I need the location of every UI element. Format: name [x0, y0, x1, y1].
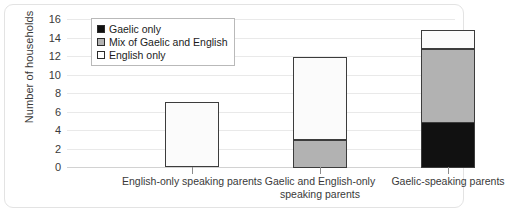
- legend-item-label: Mix of Gaelic and English: [109, 36, 227, 48]
- legend-item-label: Gaelic only: [109, 23, 161, 35]
- bar-stack[interactable]: [165, 102, 219, 167]
- legend-item[interactable]: Gaelic only: [97, 22, 227, 35]
- legend-swatch-icon: [97, 38, 105, 46]
- y-axis-tick-label: 0: [55, 161, 61, 173]
- gridline: [67, 149, 455, 150]
- x-axis-tick-mark: [448, 167, 449, 174]
- axis-baseline: [67, 167, 455, 168]
- bar-segment[interactable]: [293, 140, 347, 168]
- gridline: [67, 112, 455, 113]
- x-axis-tick-mark: [192, 167, 193, 174]
- x-axis-tick-mark: [320, 167, 321, 174]
- y-axis-tick-label: 10: [49, 69, 61, 81]
- legend-item-label: English only: [109, 49, 166, 61]
- legend-swatch-icon: [97, 25, 105, 33]
- bar-stack[interactable]: [293, 57, 347, 167]
- y-axis-tick-label: 16: [49, 13, 61, 25]
- y-axis-tick-label: 4: [55, 124, 61, 136]
- legend-swatch-icon: [97, 51, 105, 59]
- y-axis-tick-label: 14: [49, 32, 61, 44]
- y-axis-tick-label: 8: [55, 87, 61, 99]
- legend-item[interactable]: English only: [97, 48, 227, 61]
- y-axis-title: Number of households: [23, 0, 35, 137]
- bar-segment[interactable]: [165, 102, 219, 167]
- bar-segment[interactable]: [421, 122, 475, 168]
- y-axis-tick-label: 12: [49, 50, 61, 62]
- legend-item[interactable]: Mix of Gaelic and English: [97, 35, 227, 48]
- bar-stack[interactable]: [421, 30, 475, 167]
- y-axis-tick-label: 2: [55, 143, 61, 155]
- chart-container: Number of households 1614121086420 Engli…: [4, 4, 464, 208]
- chart-legend: Gaelic onlyMix of Gaelic and EnglishEngl…: [91, 18, 235, 66]
- bar-segment[interactable]: [421, 30, 475, 49]
- bar-segment[interactable]: [293, 57, 347, 140]
- x-axis-category-label: Gaelic-speaking parents: [373, 175, 509, 188]
- gridline: [67, 93, 455, 94]
- gridline: [67, 75, 455, 76]
- bar-segment[interactable]: [421, 49, 475, 123]
- gridline: [67, 130, 455, 131]
- x-axis-labels: English-only speaking parentsGaelic and …: [67, 175, 455, 209]
- y-axis-tick-label: 6: [55, 106, 61, 118]
